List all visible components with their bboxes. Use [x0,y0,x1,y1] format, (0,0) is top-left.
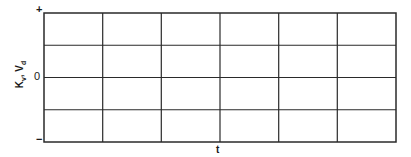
y-tick-zero: 0 [34,70,40,82]
grid-lines [44,13,396,142]
y-axis-label: Kv, Vd [14,45,27,105]
y-tick-plus: + [36,3,42,15]
y-tick-minus: − [36,133,42,145]
empty-chart-grid [0,0,411,157]
x-axis-label: t [216,144,219,155]
